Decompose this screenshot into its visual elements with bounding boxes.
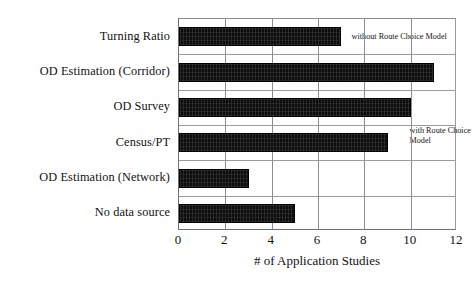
category-label: OD Survey	[113, 99, 170, 113]
bar	[179, 133, 388, 152]
bar	[179, 98, 411, 117]
annotation-without-route-choice-model: without Route Choice Model	[352, 32, 447, 43]
x-axis-tick-label: 6	[314, 232, 321, 248]
category-label: OD Estimation (Corridor)	[40, 64, 170, 78]
x-axis-tick-label: 2	[221, 232, 228, 248]
x-axis-tick-label: 10	[403, 232, 416, 248]
vertical-gridline	[318, 19, 319, 229]
x-axis-ticks: 024681012	[178, 232, 456, 254]
horizontal-gridline	[179, 54, 455, 55]
x-axis-tick-label: 4	[267, 232, 274, 248]
category-axis-labels: Turning Ratio OD Estimation (Corridor) O…	[0, 18, 174, 230]
vertical-gridline	[411, 19, 412, 229]
vertical-gridline	[225, 19, 226, 229]
horizontal-gridline	[179, 160, 455, 161]
horizontal-gridline	[179, 90, 455, 91]
x-axis-title: # of Application Studies	[178, 252, 456, 269]
bar	[179, 169, 249, 188]
plot-area: without Route Choice Model with Route Ch…	[178, 18, 456, 230]
vertical-gridline	[364, 19, 365, 229]
category-label: Census/PT	[116, 135, 170, 149]
bar	[179, 204, 295, 223]
x-axis-tick-label: 12	[450, 232, 463, 248]
bar	[179, 27, 341, 46]
bar	[179, 63, 434, 82]
bar-chart: Turning Ratio OD Estimation (Corridor) O…	[0, 0, 476, 282]
x-axis-tick-label: 8	[360, 232, 367, 248]
horizontal-gridline	[179, 125, 455, 126]
category-label: Turning Ratio	[100, 29, 170, 43]
vertical-gridline	[272, 19, 273, 229]
horizontal-gridline	[179, 196, 455, 197]
annotation-with-route-choice-model: with Route Choice Model	[410, 126, 476, 147]
category-label: No data source	[95, 205, 170, 219]
category-label: OD Estimation (Network)	[39, 170, 170, 184]
x-axis-tick-label: 0	[175, 232, 182, 248]
